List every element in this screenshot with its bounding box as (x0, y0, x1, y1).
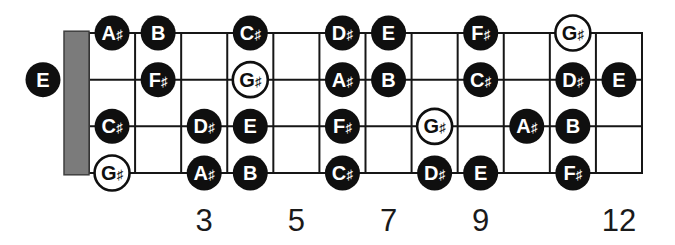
fret-number: 9 (472, 203, 489, 238)
nut (64, 31, 89, 175)
fret-number: 5 (288, 203, 305, 238)
fret-number: 7 (380, 203, 397, 238)
note-label: E (474, 162, 487, 184)
note-label: B (381, 69, 395, 91)
note-label: B (151, 22, 165, 44)
fret-number: 12 (602, 203, 636, 238)
note-label: B (566, 115, 580, 137)
note-label: B (243, 162, 257, 184)
note-label: E (244, 115, 257, 137)
fret-number: 3 (196, 203, 213, 238)
open-note-label: E (36, 69, 49, 91)
fretboard-svg: EA♯BC♯D♯EF♯G♯F♯G♯A♯BC♯D♯EC♯D♯EF♯G♯A♯BG♯A… (0, 0, 675, 245)
note-label: E (612, 69, 625, 91)
note-label: E (382, 22, 395, 44)
fretboard-diagram: EA♯BC♯D♯EF♯G♯F♯G♯A♯BC♯D♯EC♯D♯EF♯G♯A♯BG♯A… (0, 0, 675, 245)
